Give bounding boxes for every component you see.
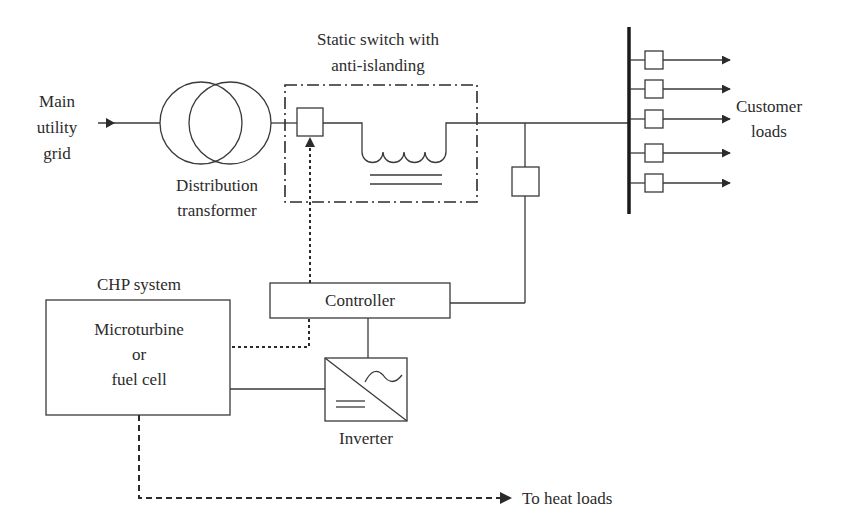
heat-loads-link [139, 415, 512, 504]
svg-text:loads: loads [751, 122, 787, 141]
svg-text:Controller: Controller [325, 291, 395, 310]
controller-box: Controller [270, 283, 450, 318]
svg-text:transformer: transformer [177, 201, 257, 220]
load-feeder-5 [630, 174, 730, 192]
load-feeder-3 [630, 110, 730, 128]
svg-text:fuel cell: fuel cell [111, 370, 166, 389]
svg-text:Customer: Customer [736, 97, 802, 116]
chp-system-title: CHP system [97, 275, 181, 294]
inductor-icon [323, 123, 628, 184]
arrow-up-icon [305, 137, 315, 147]
svg-text:Distribution: Distribution [176, 176, 259, 195]
distribution-transformer-icon [160, 82, 271, 164]
static-switch-label: Static switch with anti-islanding [317, 30, 439, 75]
customer-load-feeders [630, 51, 730, 192]
arrow-right-icon [106, 118, 115, 128]
svg-text:Microturbine: Microturbine [94, 320, 184, 339]
svg-text:utility: utility [37, 118, 78, 137]
grid-input-line [98, 118, 160, 128]
load-feeder-4 [630, 144, 730, 162]
grid-label: Main utility grid [37, 92, 78, 163]
load-feeder-2 [630, 80, 730, 98]
svg-text:anti-islanding: anti-islanding [331, 56, 425, 75]
inverter-label: Inverter [339, 429, 393, 448]
svg-text:Static switch with: Static switch with [317, 30, 439, 49]
inverter-icon [325, 358, 407, 421]
chp-control-signal [232, 318, 309, 347]
svg-text:grid: grid [43, 144, 71, 163]
svg-text:or: or [132, 345, 147, 364]
transformer-label: Distribution transformer [176, 176, 259, 220]
feeder-breaker-link [450, 123, 539, 303]
control-signal-switch [305, 137, 315, 283]
static-switch-breaker [297, 108, 323, 136]
heat-loads-label: To heat loads [522, 489, 612, 508]
svg-text:Main: Main [39, 92, 75, 111]
customer-loads-label: Customer loads [736, 97, 802, 141]
load-feeder-1 [630, 51, 730, 69]
chp-system-box: Microturbine or fuel cell [46, 300, 230, 415]
arrow-right-icon [500, 492, 512, 504]
